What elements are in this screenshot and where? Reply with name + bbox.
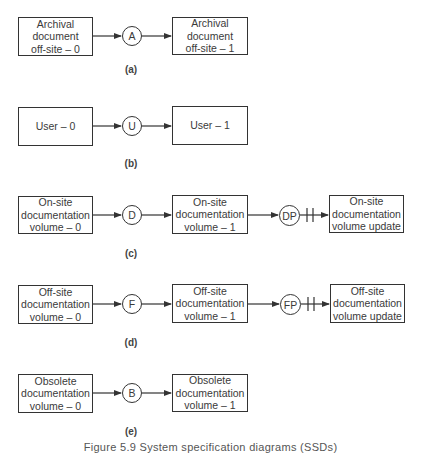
entity-box-user-1: User – 1	[172, 106, 248, 145]
event-node-b: B	[122, 383, 142, 403]
event-node-f: F	[122, 294, 142, 314]
sublabel-e: (e)	[111, 426, 151, 437]
entity-box-obsolete-documentation-volume-0: Obsolete documentation volume – 0	[18, 374, 93, 413]
entity-box-archival-document-off-site-0: Archival document off-site – 0	[18, 17, 93, 56]
sublabel-a: (a)	[111, 64, 151, 75]
event-node-fp: FP	[280, 294, 301, 315]
event-node-a: A	[122, 26, 142, 46]
entity-box-on-site-documentation-volume-0: On-site documentation volume – 0	[18, 196, 93, 234]
event-node-u: U	[122, 116, 142, 136]
event-node-dp: DP	[279, 205, 300, 226]
sublabel-b: (b)	[111, 158, 151, 169]
entity-box-on-site-documentation-volume-update: On-site documentation volume update	[329, 195, 404, 233]
sublabel-c: (c)	[111, 248, 151, 259]
figure-caption: Figure 5.9 System specification diagrams…	[0, 441, 421, 453]
entity-box-off-site-documentation-volume-update: Off-site documentation volume update	[330, 284, 405, 323]
entity-box-archival-document-off-site-1: Archival document off-site – 1	[172, 17, 248, 55]
sublabel-d: (d)	[111, 337, 151, 348]
entity-box-off-site-documentation-volume-1: Off-site documentation volume – 1	[172, 284, 248, 323]
event-node-d: D	[122, 205, 142, 225]
entity-box-user-0: User – 0	[18, 107, 93, 146]
entity-box-on-site-documentation-volume-1: On-site documentation volume – 1	[172, 195, 248, 234]
entity-box-obsolete-documentation-volume-1: Obsolete documentation volume – 1	[172, 374, 248, 412]
entity-box-off-site-documentation-volume-0: Off-site documentation volume – 0	[18, 285, 93, 324]
